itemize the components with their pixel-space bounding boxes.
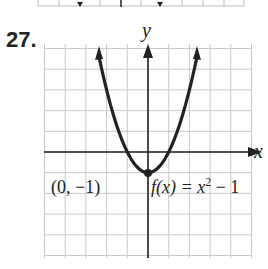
x-axis-label: x <box>253 140 263 162</box>
y-axis-label: y <box>140 19 151 42</box>
function-label-suffix: − 1 <box>211 177 239 197</box>
function-label-main: f(x) = x <box>151 177 205 198</box>
vertex-label: (0, −1) <box>51 177 100 198</box>
function-label: f(x) = x2 − 1 <box>151 175 239 198</box>
vertex-point <box>144 169 152 177</box>
graph: x y (0, −1) f(x) = x2 − 1 <box>0 0 268 269</box>
previous-graph-remnant <box>38 0 244 7</box>
y-axis-arrow-icon <box>143 44 153 58</box>
